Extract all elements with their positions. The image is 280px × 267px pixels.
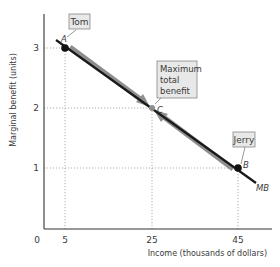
y-tick-3: 3 bbox=[33, 43, 39, 53]
x-tick-0: 0 bbox=[34, 235, 40, 245]
svg-text:Jerry: Jerry bbox=[233, 135, 255, 145]
svg-text:Tom: Tom bbox=[69, 17, 88, 27]
label-b: B bbox=[243, 160, 249, 170]
svg-text:benefit: benefit bbox=[160, 86, 191, 96]
x-tick-25: 25 bbox=[146, 235, 157, 245]
svg-text:total: total bbox=[160, 75, 179, 85]
label-a: A bbox=[60, 34, 67, 44]
x-axis-title: Income (thousands of dollars) bbox=[148, 249, 267, 258]
point-a bbox=[61, 44, 69, 52]
x-tick-45: 45 bbox=[232, 235, 243, 245]
y-tick-2: 2 bbox=[33, 103, 39, 113]
label-c: C bbox=[157, 105, 163, 115]
y-axis-title: Marginal benefit (units) bbox=[9, 53, 18, 147]
chart: Tom Maximum total benefit Jerry A B C MB… bbox=[0, 0, 280, 267]
point-c bbox=[149, 105, 155, 111]
label-mb: MB bbox=[256, 183, 269, 193]
callout-tom: Tom bbox=[67, 14, 90, 37]
point-b bbox=[234, 164, 242, 172]
svg-text:Maximum: Maximum bbox=[160, 64, 202, 74]
axes bbox=[44, 14, 272, 229]
guide-lines bbox=[44, 48, 238, 229]
y-tick-1: 1 bbox=[33, 163, 39, 173]
callout-maximum-benefit: Maximum total benefit bbox=[155, 61, 202, 104]
mb-curve bbox=[56, 40, 256, 183]
x-tick-5: 5 bbox=[62, 235, 68, 245]
